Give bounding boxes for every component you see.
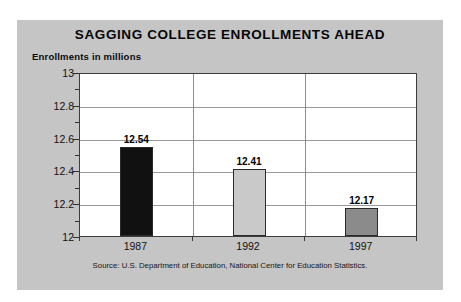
y-tick-label: 13 — [62, 67, 74, 79]
plot-area: 12.5412.4112.17 — [79, 73, 417, 237]
x-tick-mark — [79, 236, 80, 241]
x-axis-labels: 198719921997 — [79, 240, 417, 256]
chart-figure: SAGGING COLLEGE ENROLLMENTS AHEAD Enroll… — [0, 0, 461, 302]
bar-1992 — [233, 169, 266, 236]
x-tick-mark — [416, 236, 417, 241]
chart-panel: SAGGING COLLEGE ENROLLMENTS AHEAD Enroll… — [17, 20, 443, 290]
x-tick-label-1992: 1992 — [192, 240, 305, 252]
y-tick-label: 12 — [62, 231, 74, 243]
x-tick-mark — [304, 236, 305, 241]
gridline-vertical — [193, 74, 194, 236]
chart-title: SAGGING COLLEGE ENROLLMENTS AHEAD — [17, 27, 443, 42]
bar-1987 — [120, 147, 153, 236]
y-tick-label: 12.8 — [54, 100, 74, 112]
y-tick-label: 12.4 — [54, 165, 74, 177]
gridline-horizontal — [80, 107, 416, 108]
gridline-vertical — [305, 74, 306, 236]
bar-value-label: 12.41 — [219, 156, 279, 167]
x-tick-label-1987: 1987 — [79, 240, 192, 252]
x-tick-mark — [192, 236, 193, 241]
bar-value-label: 12.17 — [332, 195, 392, 206]
bar-value-label: 12.54 — [106, 134, 166, 145]
y-tick-label: 12.2 — [54, 198, 74, 210]
source-note: Source: U.S. Department of Education, Na… — [17, 261, 443, 270]
x-tick-label-1997: 1997 — [304, 240, 417, 252]
bar-1997 — [345, 208, 378, 236]
y-axis-labels: 1312.812.612.412.212 — [27, 73, 74, 237]
y-tick-label: 12.6 — [54, 133, 74, 145]
y-axis-title: Enrollments in millions — [32, 51, 141, 62]
